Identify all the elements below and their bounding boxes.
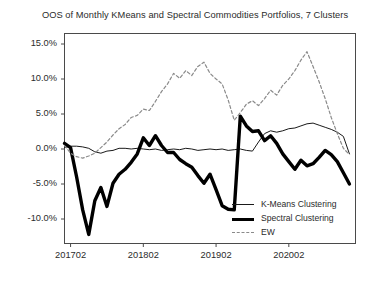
y-axis-tick-label: 15.0%	[5, 38, 57, 48]
chart-figure: OOS of Monthly KMeans and Spectral Commo…	[0, 0, 390, 283]
y-axis-tick-label: -10.0%	[5, 213, 57, 223]
series-line-k-means-clustering	[65, 123, 350, 154]
chart-legend: K-Means Clustering Spectral Clustering E…	[232, 197, 354, 239]
y-axis-tick-label: 10.0%	[5, 73, 57, 83]
series-line-ew	[65, 52, 350, 158]
x-axis-tick-label: 201702	[41, 250, 101, 260]
x-axis-tick-label: 201902	[186, 250, 246, 260]
legend-swatch-kmeans-line-icon	[232, 199, 254, 209]
legend-label-spectral: Spectral Clustering	[261, 213, 334, 223]
legend-item-spectral: Spectral Clustering	[232, 211, 354, 225]
legend-item-kmeans: K-Means Clustering	[232, 197, 354, 211]
plot-canvas	[0, 0, 390, 283]
legend-swatch-ew-line-icon	[232, 227, 254, 237]
x-axis-tick-label: 202002	[259, 250, 319, 260]
y-axis-tick-label: -5.0%	[5, 178, 57, 188]
legend-label-kmeans: K-Means Clustering	[261, 199, 336, 209]
legend-label-ew: EW	[261, 227, 275, 237]
legend-swatch-spectral-line-icon	[232, 213, 254, 223]
y-axis-tick-label: 0.0%	[5, 143, 57, 153]
legend-item-ew: EW	[232, 225, 354, 239]
y-axis-tick-label: 5.0%	[5, 108, 57, 118]
x-axis-tick-label: 201802	[113, 250, 173, 260]
